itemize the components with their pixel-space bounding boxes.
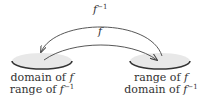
inverse-exponent: −1 bbox=[97, 3, 107, 11]
left-set-ellipse bbox=[12, 53, 72, 69]
left-set-line2: range of f−1 bbox=[2, 84, 82, 96]
left-set-label: domain of f range of f−1 bbox=[2, 72, 82, 96]
function-symbol: f bbox=[98, 25, 102, 38]
inverse-function-diagram: f−1 f domain of f range of f−1 range of … bbox=[0, 0, 202, 107]
function-label: f bbox=[98, 25, 102, 38]
right-set-ellipse bbox=[130, 53, 190, 69]
right-set-line2: domain of f−1 bbox=[120, 84, 202, 96]
inverse-function-label: f−1 bbox=[93, 3, 107, 16]
right-set-label: range of f domain of f−1 bbox=[120, 72, 202, 96]
